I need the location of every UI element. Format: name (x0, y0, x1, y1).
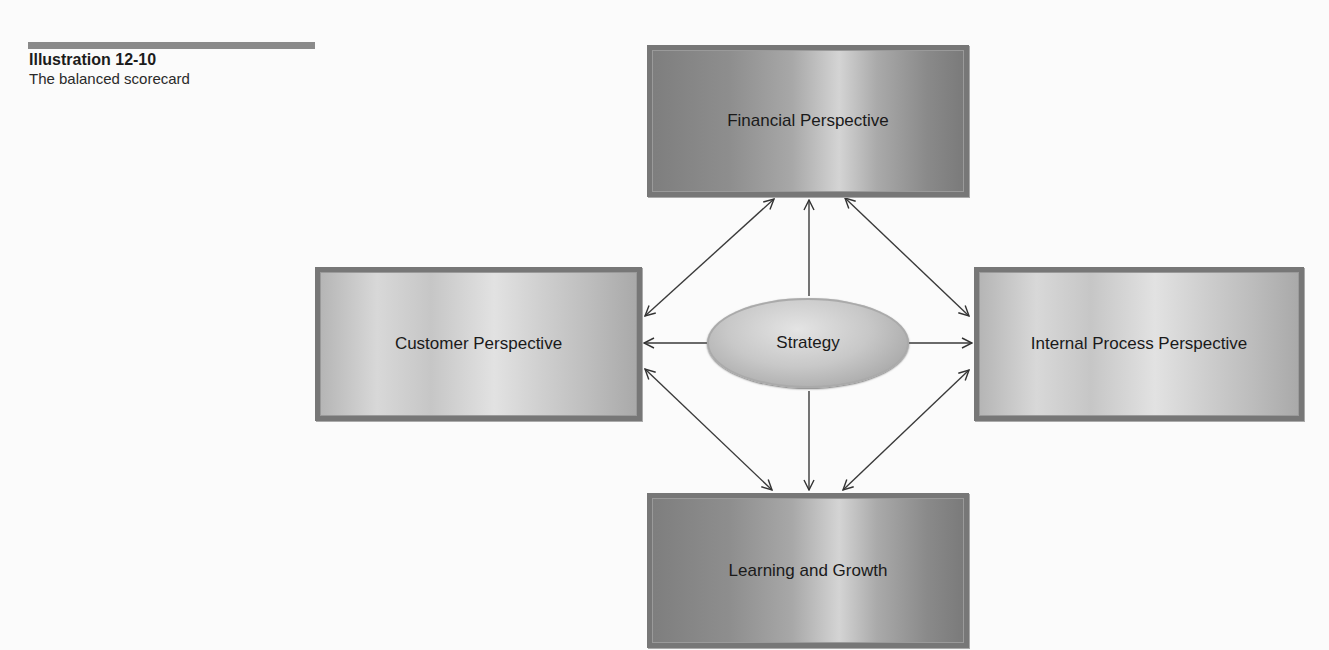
financial-perspective-label: Financial Perspective (727, 111, 889, 131)
internal-process-perspective-label: Internal Process Perspective (1031, 334, 1247, 354)
customer-perspective-label: Customer Perspective (395, 334, 562, 354)
learning-and-growth-box: Learning and Growth (647, 493, 969, 648)
strategy-ellipse: Strategy (707, 298, 909, 388)
arrow-financial-internal (845, 198, 969, 316)
financial-perspective-box: Financial Perspective (647, 45, 969, 197)
learning-and-growth-label: Learning and Growth (729, 561, 888, 581)
arrow-financial-customer (645, 199, 774, 316)
customer-perspective-box: Customer Perspective (315, 267, 642, 421)
strategy-label: Strategy (776, 333, 839, 353)
internal-process-perspective-box: Internal Process Perspective (974, 267, 1304, 421)
arrow-internal-learning (843, 370, 969, 490)
arrow-customer-learning (645, 369, 772, 490)
